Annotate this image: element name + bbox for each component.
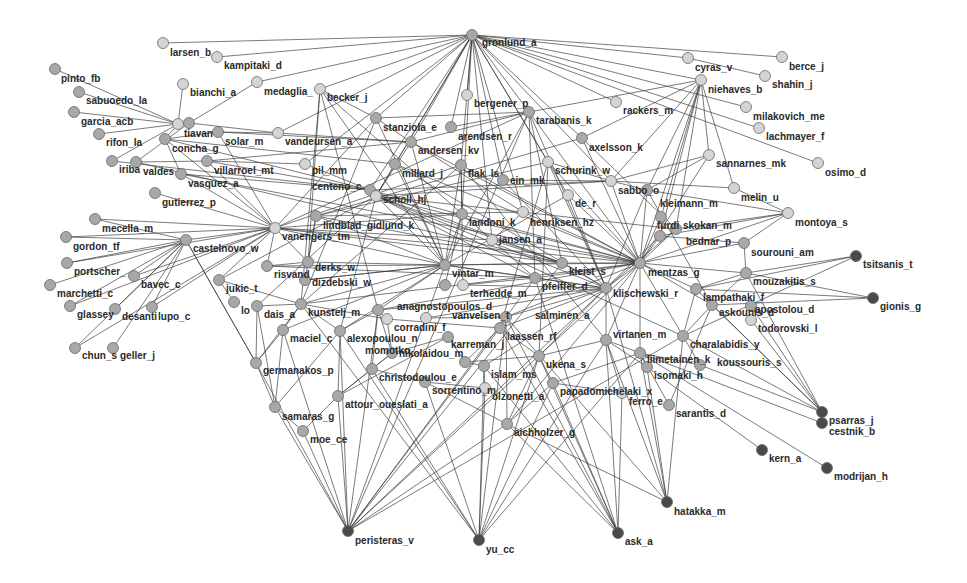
graph-node-medaglia-c[interactable] <box>252 77 263 88</box>
graph-node-becker-j[interactable] <box>315 84 326 95</box>
graph-node-liimetainen-k[interactable] <box>635 348 646 359</box>
graph-node-moe-ce[interactable] <box>298 426 309 437</box>
graph-node-modrijan-h[interactable] <box>822 463 833 474</box>
graph-node-flak-ls[interactable] <box>456 160 467 171</box>
graph-node-concha-g[interactable] <box>160 134 171 145</box>
graph-node-bianchi-a[interactable] <box>178 79 189 90</box>
graph-node-germanakos-p[interactable] <box>251 358 262 369</box>
graph-node-rackers-m[interactable] <box>611 97 622 108</box>
graph-node-alexopoulou-n[interactable] <box>335 326 346 337</box>
graph-node-chun-s[interactable] <box>70 343 81 354</box>
graph-node-laassen-rf[interactable] <box>495 323 506 334</box>
graph-node-tiavan-ernest[interactable] <box>173 119 184 130</box>
graph-node-iriba[interactable] <box>107 156 118 167</box>
graph-node-charalabidis-y[interactable] <box>678 331 689 342</box>
graph-node-cyras-v[interactable] <box>683 53 694 64</box>
graph-node-kleist-s[interactable] <box>557 258 568 269</box>
graph-node-andersen-kv[interactable] <box>406 137 417 148</box>
graph-node-derks-w[interactable] <box>303 257 314 268</box>
graph-node-glassey-o[interactable] <box>65 301 76 312</box>
graph-node-de-r[interactable] <box>563 190 574 201</box>
graph-node-islam-ms[interactable] <box>479 361 490 372</box>
graph-node-kern-a[interactable] <box>757 445 768 456</box>
graph-node-rifon-la[interactable] <box>94 129 105 140</box>
graph-node-melin-u[interactable] <box>729 183 740 194</box>
graph-node-millard-j[interactable] <box>390 159 401 170</box>
graph-node-bergener-p[interactable] <box>462 90 473 101</box>
graph-node-schurink-w[interactable] <box>543 157 554 168</box>
graph-node-mentzas-g[interactable] <box>635 258 646 269</box>
graph-node-terhedde-m[interactable] <box>458 280 469 291</box>
graph-node-tsitsanis-t[interactable] <box>851 251 862 262</box>
graph-node-cestnik-b[interactable] <box>817 418 828 429</box>
graph-node-samaras-g[interactable] <box>270 402 281 413</box>
graph-node-hatakka-m[interactable] <box>662 497 673 508</box>
graph-node-peristeras-v[interactable] <box>343 526 354 537</box>
graph-node-virtanen-m[interactable] <box>601 335 612 346</box>
graph-node-tiavan-b[interactable] <box>184 118 195 129</box>
graph-node-lampathaki-f[interactable] <box>691 284 702 295</box>
graph-node-arendsen-r[interactable] <box>446 122 457 133</box>
graph-node-villarroel-mt[interactable] <box>202 156 213 167</box>
graph-node-marchetti-c[interactable] <box>45 280 56 291</box>
graph-node-jukic-t[interactable] <box>214 275 225 286</box>
graph-node-aichholzer-g[interactable] <box>502 419 513 430</box>
graph-node-mouzakitis-s[interactable] <box>741 268 752 279</box>
graph-node-jansen-a[interactable] <box>487 235 498 246</box>
graph-node-dais-a[interactable] <box>252 301 263 312</box>
graph-node-sabucedo-la[interactable] <box>74 87 85 98</box>
graph-node-vandeursen-a[interactable] <box>273 128 284 139</box>
graph-node-berce-j[interactable] <box>777 52 788 63</box>
graph-node-kampitaki-d[interactable] <box>212 52 223 63</box>
graph-node-gutierrez-p[interactable] <box>150 188 161 199</box>
graph-node-ask-a[interactable] <box>613 528 624 539</box>
graph-node-milakovich-me[interactable] <box>741 102 752 113</box>
graph-node-scholl-hj[interactable] <box>371 191 382 202</box>
graph-node-gordon-tf[interactable] <box>61 232 72 243</box>
graph-node-larsen-b[interactable] <box>158 38 169 49</box>
graph-node-vintar-m[interactable] <box>440 260 451 271</box>
graph-node-mecella-m[interactable] <box>90 214 101 225</box>
graph-node-ein-mk[interactable] <box>498 175 509 186</box>
graph-node-axelsson-k[interactable] <box>577 133 588 144</box>
graph-node-attour-oueslati-a[interactable] <box>333 391 344 402</box>
graph-node-gronlund-a[interactable] <box>467 30 478 41</box>
graph-node-castelnovo-w[interactable] <box>181 235 192 246</box>
graph-node-pinto-fb[interactable] <box>50 64 61 75</box>
graph-node-shahin-j[interactable] <box>760 71 771 82</box>
graph-node-ukena-s[interactable] <box>534 351 545 362</box>
graph-node-landoni-k[interactable] <box>457 209 468 220</box>
graph-node-stanziola-e[interactable] <box>371 113 382 124</box>
graph-node-niehaves-b[interactable] <box>696 75 707 86</box>
graph-node-lachmayer-f[interactable] <box>754 123 765 134</box>
graph-node-osimo-d[interactable] <box>813 158 824 169</box>
graph-node-psarras-j[interactable] <box>817 407 828 418</box>
graph-node-vanengers-tm[interactable] <box>270 223 281 234</box>
graph-node-risvand-a[interactable] <box>262 261 273 272</box>
graph-node-gionis-g[interactable] <box>868 293 879 304</box>
graph-node-vasquez-a[interactable] <box>176 169 187 180</box>
graph-node-anagnostopoulos-d[interactable] <box>373 305 384 316</box>
graph-node-papadomichelaki-x[interactable] <box>548 378 559 389</box>
graph-node-lindblad-gidlund-k[interactable] <box>311 211 322 222</box>
graph-node-garcia-acb[interactable] <box>69 107 80 118</box>
graph-node-corradini-f[interactable] <box>382 314 393 325</box>
graph-node-sourouni-am[interactable] <box>739 238 750 249</box>
graph-node-kunstelj-m[interactable] <box>296 299 307 310</box>
graph-node-christodoulou-e[interactable] <box>367 364 378 375</box>
graph-node-portscher-e[interactable] <box>62 258 73 269</box>
graph-node-klischewski-r[interactable] <box>601 283 612 294</box>
graph-node-yu-cc[interactable] <box>474 535 485 546</box>
graph-node-montoya-s[interactable] <box>783 208 794 219</box>
graph-node-lon[interactable] <box>229 297 240 308</box>
graph-node-bednar-p[interactable] <box>655 231 666 242</box>
graph-node-sabbo-o[interactable] <box>606 176 617 187</box>
graph-node-sarantis-d[interactable] <box>664 400 675 411</box>
graph-node-maciel-c[interactable] <box>278 325 289 336</box>
graph-node-henriksen-hz[interactable] <box>518 207 529 218</box>
graph-node-pil-mm[interactable] <box>300 159 311 170</box>
graph-node-bavec-c[interactable] <box>129 271 140 282</box>
graph-node-sheriff-m[interactable] <box>440 280 451 291</box>
graph-node-solar-m[interactable] <box>213 127 224 138</box>
graph-node-sannarnes-mk[interactable] <box>704 150 715 161</box>
